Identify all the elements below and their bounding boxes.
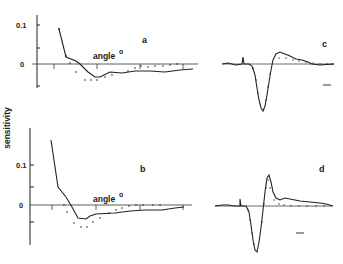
panel-b-label: b xyxy=(140,164,146,174)
panel-a-ytick-zero: 0 xyxy=(20,60,24,69)
panel-b: 0.1 0 b angle o xyxy=(16,128,192,245)
panel-a-label: a xyxy=(142,35,148,45)
panel-d-data-dots xyxy=(247,179,324,244)
panel-d-label: d xyxy=(319,164,325,174)
panel-b-xlabel-degree: o xyxy=(119,191,123,198)
panel-c-label: c xyxy=(322,39,327,49)
panel-b-model-line xyxy=(51,140,184,219)
panel-b-ytick-zero: 0 xyxy=(19,201,23,210)
panel-a: 0.1 0 a angle o xyxy=(16,15,198,88)
panel-c: c xyxy=(222,39,334,111)
panel-b-ytick-top: 0.1 xyxy=(16,161,26,170)
panel-a-xlabel-degree: o xyxy=(119,48,123,55)
panel-a-model-line xyxy=(59,29,193,77)
panel-d: d xyxy=(215,164,333,252)
panel-d-model-line xyxy=(215,175,333,252)
panel-b-xlabel: angle xyxy=(93,194,115,204)
panel-c-model-line xyxy=(222,52,334,111)
y-axis-label: sensitivity xyxy=(2,107,12,149)
figure: 0.1 0 a angle o xyxy=(0,0,343,264)
panel-a-ytick-top: 0.1 xyxy=(16,21,26,30)
panel-b-data-dots xyxy=(63,204,161,228)
panel-a-xlabel: angle xyxy=(93,51,115,61)
